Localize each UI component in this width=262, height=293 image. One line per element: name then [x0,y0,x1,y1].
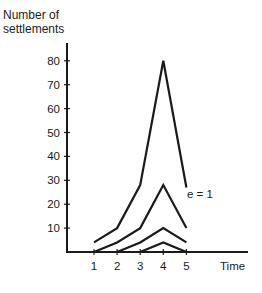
x-tick-label: 1 [91,260,97,272]
x-tick-label: 2 [114,260,120,272]
y-tick-label: 40 [47,150,60,162]
y-tick-label: 50 [47,127,60,139]
y-tick-label: 30 [47,174,60,186]
y-tick-label: 10 [47,222,60,234]
series-lines [94,61,186,252]
axes [64,43,248,255]
x-tick-label: 3 [137,260,143,272]
line-chart: 102030405060708012345Timee = 1 [0,0,262,293]
series-annotation: e = 1 [187,188,213,200]
x-tick-label: 4 [160,260,167,272]
x-tick-label: 5 [183,260,189,272]
series-line-1 [94,61,186,243]
y-tick-label: 20 [47,198,60,210]
y-tick-label: 80 [47,55,60,67]
y-tick-label: 60 [47,103,60,115]
y-tick-label: 70 [47,79,60,91]
x-axis-label: Time [220,260,245,272]
